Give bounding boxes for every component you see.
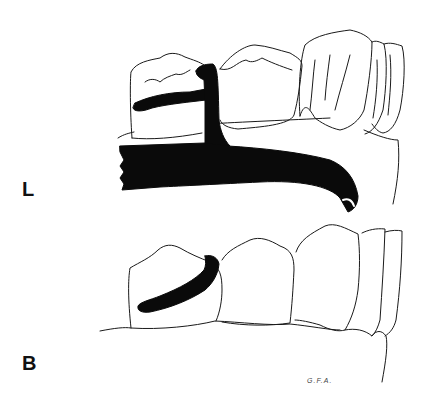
view-label-lingual: L bbox=[22, 178, 34, 201]
artist-signature: G.F.A. bbox=[307, 377, 332, 384]
buccal-view bbox=[100, 225, 402, 382]
lingual-right-gum bbox=[364, 130, 399, 204]
buccal-clasp-arm bbox=[138, 255, 219, 312]
buccal-incisor-1 bbox=[362, 229, 385, 336]
buccal-gingiva bbox=[100, 321, 340, 331]
lingual-molar-base bbox=[132, 133, 202, 139]
lingual-major-connector bbox=[120, 64, 358, 212]
lingual-gingiva bbox=[118, 118, 330, 138]
buccal-premolar bbox=[222, 238, 294, 325]
buccal-canine bbox=[295, 225, 360, 331]
illustration-canvas bbox=[0, 0, 439, 414]
buccal-incisor-2 bbox=[385, 230, 402, 336]
view-label-buccal: B bbox=[22, 352, 36, 375]
lingual-view bbox=[118, 30, 404, 212]
lingual-incisor-2-ridge bbox=[373, 55, 391, 118]
lingual-canine-ridges bbox=[310, 55, 350, 110]
lingual-premolar-cusp bbox=[220, 58, 292, 70]
lingual-premolar-crown bbox=[220, 45, 302, 129]
buccal-right-gum bbox=[345, 329, 387, 382]
lingual-canine bbox=[299, 30, 372, 130]
